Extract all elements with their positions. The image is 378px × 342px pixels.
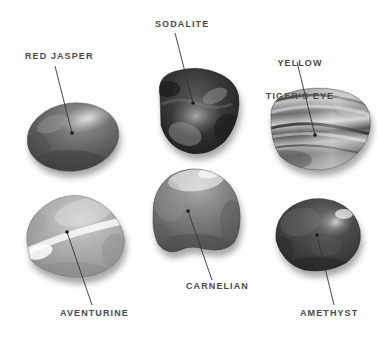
stone-sodalite [156, 68, 242, 154]
gemstone-plate: RED JASPER SODALITE YELLOW TIGER'S EYE A… [0, 0, 378, 342]
label-carnelian: CARNELIAN [186, 281, 249, 292]
label-sodalite: SODALITE [155, 19, 209, 30]
leader-dot-sodalite [191, 101, 195, 105]
leader-dot-red-jasper [70, 131, 74, 135]
stone-amethyst [270, 198, 360, 275]
leader-dot-amethyst [315, 233, 319, 237]
leader-dot-carnelian [186, 209, 190, 213]
leader-dot-yellow-tigers-eye [313, 133, 317, 137]
label-aventurine: AVENTURINE [60, 308, 129, 319]
stone-carnelian [147, 163, 244, 254]
label-yellow-tigers-eye-line1: YELLOW [258, 58, 342, 69]
label-yellow-tigers-eye: YELLOW TIGER'S EYE [258, 36, 342, 124]
label-amethyst: AMETHYST [300, 308, 358, 319]
leader-dot-aventurine [65, 230, 69, 234]
stone-red-jasper [23, 97, 124, 177]
label-yellow-tigers-eye-line2: TIGER'S EYE [258, 91, 342, 102]
label-red-jasper: RED JASPER [25, 51, 94, 62]
stone-aventurine [22, 192, 130, 282]
